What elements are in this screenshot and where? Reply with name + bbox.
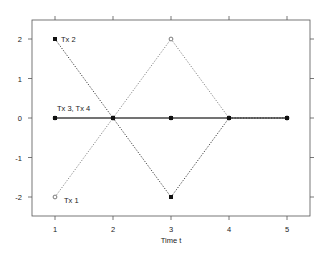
y-tick-label: 1: [18, 75, 22, 84]
filled-square-marker: [285, 116, 289, 120]
filled-square-marker: [111, 116, 115, 120]
filled-square-marker: [53, 37, 57, 41]
filled-square-marker: [169, 195, 173, 199]
x-axis-title: Time t: [161, 236, 182, 245]
annotation-tx3-tx4: Tx 3, Tx 4: [57, 104, 90, 113]
series-tx4: [53, 116, 289, 120]
y-tick-label: -1: [15, 154, 22, 163]
x-tick-label: 2: [111, 225, 115, 234]
x-tick-label: 1: [53, 225, 57, 234]
annotation-tx1: Tx 1: [64, 196, 79, 205]
y-tick-label: 0: [18, 114, 22, 123]
filled-square-marker: [53, 116, 57, 120]
y-tick-label: 2: [18, 35, 22, 44]
annotation-tx2: Tx 2: [61, 35, 76, 44]
open-circle-marker: [169, 37, 173, 41]
open-circle-marker: [53, 195, 57, 199]
x-tick-label: 4: [227, 225, 231, 234]
x-tick-label: 3: [169, 225, 173, 234]
filled-square-marker: [169, 116, 173, 120]
y-tick-label: -2: [15, 193, 22, 202]
x-tick-label: 5: [285, 225, 289, 234]
filled-square-marker: [227, 116, 231, 120]
chart: 1 2 3 4 5 2 1 0 -1 -2 Time t Tx 2 Tx 3, …: [0, 0, 328, 254]
series-layer: [53, 37, 289, 199]
plot-svg: 1 2 3 4 5 2 1 0 -1 -2 Time t Tx 2 Tx 3, …: [0, 0, 328, 254]
